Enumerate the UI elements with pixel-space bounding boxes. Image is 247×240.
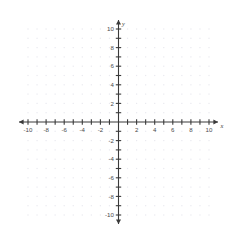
grid-dot bbox=[27, 214, 28, 215]
grid-dot bbox=[91, 159, 92, 160]
grid-dot bbox=[154, 103, 155, 104]
grid-dot bbox=[199, 38, 200, 39]
y-axis-tick-label: 8 bbox=[111, 44, 115, 51]
grid-dot bbox=[145, 187, 146, 188]
grid-dot bbox=[91, 214, 92, 215]
grid-dot bbox=[145, 47, 146, 48]
grid-dot bbox=[36, 205, 37, 206]
grid-dot bbox=[181, 214, 182, 215]
grid-dot bbox=[100, 214, 101, 215]
grid-dot bbox=[163, 168, 164, 169]
x-axis-tick-label: -10 bbox=[24, 126, 33, 133]
grid-dot bbox=[172, 205, 173, 206]
grid-dot bbox=[55, 205, 56, 206]
grid-dot bbox=[82, 149, 83, 150]
grid-dot bbox=[145, 205, 146, 206]
grid-dot bbox=[199, 159, 200, 160]
grid-dot bbox=[55, 168, 56, 169]
grid-dot bbox=[199, 112, 200, 113]
grid-dot bbox=[73, 205, 74, 206]
grid-dot bbox=[208, 94, 209, 95]
grid-dot bbox=[154, 187, 155, 188]
grid-dot bbox=[46, 205, 47, 206]
grid-dot bbox=[127, 47, 128, 48]
grid-dot bbox=[136, 47, 137, 48]
grid-dot bbox=[199, 196, 200, 197]
grid-dot bbox=[172, 28, 173, 29]
grid-dot bbox=[172, 149, 173, 150]
grid-dot bbox=[109, 168, 110, 169]
grid-dot bbox=[154, 112, 155, 113]
grid-dot bbox=[73, 94, 74, 95]
grid-dot bbox=[181, 84, 182, 85]
grid-dot bbox=[27, 28, 28, 29]
grid-dot bbox=[181, 66, 182, 67]
grid-dot bbox=[199, 56, 200, 57]
grid-dot bbox=[55, 103, 56, 104]
grid-dot bbox=[127, 94, 128, 95]
grid-dot bbox=[91, 38, 92, 39]
grid-dot bbox=[55, 112, 56, 113]
grid-dot bbox=[181, 205, 182, 206]
grid-dot bbox=[208, 84, 209, 85]
grid-dot bbox=[127, 103, 128, 104]
grid-dot bbox=[199, 168, 200, 169]
grid-dot bbox=[27, 149, 28, 150]
grid-dot bbox=[190, 214, 191, 215]
grid-dot bbox=[172, 196, 173, 197]
grid-dot bbox=[199, 94, 200, 95]
grid-dot bbox=[100, 38, 101, 39]
grid-dot bbox=[82, 103, 83, 104]
grid-dot bbox=[100, 103, 101, 104]
grid-dot bbox=[163, 75, 164, 76]
grid-dot bbox=[91, 168, 92, 169]
grid-dot bbox=[64, 75, 65, 76]
grid-dot bbox=[190, 177, 191, 178]
grid-dot bbox=[73, 66, 74, 67]
grid-dot bbox=[27, 205, 28, 206]
grid-dot bbox=[55, 187, 56, 188]
grid-dot bbox=[36, 103, 37, 104]
grid-dot bbox=[55, 94, 56, 95]
grid-dot bbox=[46, 47, 47, 48]
grid-dot bbox=[208, 38, 209, 39]
grid-dot bbox=[199, 66, 200, 67]
grid-dot bbox=[145, 112, 146, 113]
y-axis-up-arrow-icon bbox=[116, 20, 121, 25]
grid-dot bbox=[82, 159, 83, 160]
grid-dot bbox=[154, 159, 155, 160]
grid-dot bbox=[208, 205, 209, 206]
grid-dot bbox=[64, 38, 65, 39]
grid-dot bbox=[145, 149, 146, 150]
grid-dot bbox=[172, 177, 173, 178]
grid-dot bbox=[145, 38, 146, 39]
x-axis-tick-label: -2 bbox=[98, 126, 104, 133]
grid-dot bbox=[55, 214, 56, 215]
grid-dot bbox=[181, 75, 182, 76]
grid-dot bbox=[100, 196, 101, 197]
grid-dot bbox=[208, 103, 209, 104]
grid-dot bbox=[55, 140, 56, 141]
grid-dot bbox=[64, 47, 65, 48]
grid-dot bbox=[36, 28, 37, 29]
grid-dot bbox=[100, 75, 101, 76]
grid-dot bbox=[163, 140, 164, 141]
grid-dot bbox=[136, 214, 137, 215]
grid-dot bbox=[136, 205, 137, 206]
grid-dot bbox=[136, 103, 137, 104]
x-axis-right-arrow-icon bbox=[213, 120, 218, 125]
grid-dot bbox=[145, 196, 146, 197]
grid-dot bbox=[208, 177, 209, 178]
grid-dot bbox=[136, 149, 137, 150]
grid-dot bbox=[127, 205, 128, 206]
grid-dot bbox=[136, 196, 137, 197]
grid-dot bbox=[64, 94, 65, 95]
grid-dot bbox=[36, 131, 37, 132]
grid-dot bbox=[27, 177, 28, 178]
grid-dot bbox=[73, 196, 74, 197]
grid-dot bbox=[36, 177, 37, 178]
grid-dot bbox=[127, 159, 128, 160]
grid-dot bbox=[82, 168, 83, 169]
grid-dot bbox=[181, 47, 182, 48]
grid-dot bbox=[36, 56, 37, 57]
